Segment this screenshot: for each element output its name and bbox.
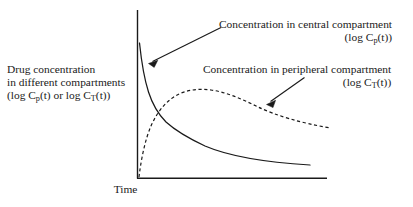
y-axis-label-line-3-mid: (t) or log C (40, 89, 91, 101)
annotation-peripheral-compartment: Concentration in peripheral compartment … (203, 63, 391, 92)
x-axis-label-wrapper: Time (0, 183, 413, 196)
y-axis-label-line-3-prefix: (log C (7, 89, 36, 101)
y-axis-label-line-2: in different compartments (7, 76, 125, 89)
y-axis-label: Drug concentration in different compartm… (7, 63, 125, 105)
annotation-peripheral-line-2: (log CT(t)) (203, 76, 391, 92)
annotation-central-suffix: (t)) (377, 31, 392, 43)
y-axis-label-line-3: (log Cp(t) or log CT(t)) (7, 89, 125, 105)
figure-container: Drug concentration in different compartm… (0, 0, 413, 207)
y-axis-label-line-3-suffix: (t)) (96, 89, 111, 101)
y-axis-label-line-1: Drug concentration (7, 63, 125, 76)
annotation-central-line-1: Concentration in central compartment (219, 18, 392, 31)
annotation-central-line-2: (log Cp(t)) (219, 31, 392, 47)
curve-peripheral-compartment (139, 89, 331, 177)
arrow-to-central-curve (149, 28, 222, 68)
annotation-central-compartment: Concentration in central compartment (lo… (219, 18, 392, 47)
curve-central-compartment (140, 43, 311, 165)
x-axis-label: Time (114, 183, 138, 195)
annotation-central-prefix: (log C (345, 31, 374, 43)
annotation-peripheral-line-1: Concentration in peripheral compartment (203, 63, 391, 76)
annotation-peripheral-prefix: (log C (343, 76, 372, 88)
annotation-peripheral-suffix: (t)) (377, 76, 392, 88)
